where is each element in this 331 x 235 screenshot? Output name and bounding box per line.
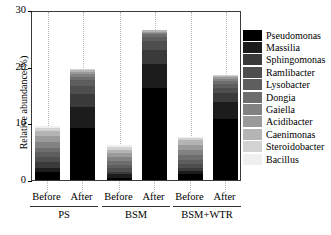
legend-swatch-icon <box>243 129 262 140</box>
stacked-bar[interactable] <box>142 30 167 180</box>
legend-item[interactable]: Sphingomonas <box>243 54 331 66</box>
y-axis-tick-label: 30 <box>8 5 26 16</box>
legend-item-label: Dongia <box>266 92 295 103</box>
group-rule <box>173 206 241 207</box>
legend-swatch-icon <box>243 116 262 127</box>
legend-item-label: Sphingomonas <box>266 54 325 65</box>
y-axis-tick-label: 10 <box>8 118 26 129</box>
bar-segment[interactable] <box>107 178 132 180</box>
y-axis-tick-mark <box>28 181 32 182</box>
bar-segment[interactable] <box>35 172 60 181</box>
stacked-bar[interactable] <box>70 69 95 180</box>
group-rule <box>30 206 98 207</box>
legend-item[interactable]: Acidibacter <box>243 116 331 128</box>
legend: PseudomonasMassiliaSphingomonasRamlibact… <box>243 29 331 165</box>
legend-item[interactable]: Dongia <box>243 91 331 103</box>
legend-item-label: Acidibacter <box>266 116 313 127</box>
legend-swatch-icon <box>243 141 262 152</box>
bar-segment[interactable] <box>213 102 238 120</box>
legend-item-label: Bacillus <box>266 154 299 165</box>
stacked-bar[interactable] <box>107 145 132 180</box>
legend-item[interactable]: Bacillus <box>243 153 331 165</box>
legend-item[interactable]: Massilia <box>243 41 331 53</box>
y-axis-tick-label: 20 <box>8 62 26 73</box>
stacked-bar[interactable] <box>178 137 203 180</box>
legend-item[interactable]: Ramlibacter <box>243 66 331 78</box>
legend-swatch-icon <box>243 67 262 78</box>
bar-segment[interactable] <box>70 128 95 180</box>
legend-swatch-icon <box>243 30 262 41</box>
legend-swatch-icon <box>243 79 262 90</box>
group-label-ps: PS <box>30 209 98 221</box>
legend-item[interactable]: Pseudomonas <box>243 29 331 41</box>
bar-segment[interactable] <box>142 41 167 50</box>
legend-swatch-icon <box>243 54 262 65</box>
legend-item[interactable]: Gaiella <box>243 103 331 115</box>
legend-item[interactable]: Lysobacter <box>243 79 331 91</box>
stacked-bar-chart-figure: Relative abundance(%) 3020100 BeforeAfte… <box>0 0 331 235</box>
y-axis-tick-mark <box>28 11 32 12</box>
plot-area <box>31 11 241 181</box>
plot-inner <box>32 12 240 180</box>
bar-segment[interactable] <box>70 94 95 107</box>
bar-segment[interactable] <box>178 174 203 180</box>
legend-swatch-icon <box>243 104 262 115</box>
stacked-bar[interactable] <box>35 126 60 180</box>
bar-segment[interactable] <box>142 64 167 88</box>
x-axis-label-after-5: After <box>202 191 248 202</box>
legend-swatch-icon <box>243 42 262 53</box>
group-rule <box>102 206 170 207</box>
legend-item[interactable]: Steroidobacter <box>243 141 331 153</box>
y-axis-tick-mark <box>28 124 32 125</box>
legend-item-label: Gaiella <box>266 104 295 115</box>
legend-swatch-icon <box>243 92 262 103</box>
legend-item-label: Pseudomonas <box>266 30 321 41</box>
stacked-bar[interactable] <box>213 75 238 180</box>
legend-item-label: Lysobacter <box>266 79 310 90</box>
bar-segment[interactable] <box>70 86 95 94</box>
legend-item-label: Steroidobacter <box>266 141 324 152</box>
legend-swatch-icon <box>243 154 262 165</box>
legend-item[interactable]: Caenimonas <box>243 128 331 140</box>
bar-segment[interactable] <box>142 88 167 180</box>
bar-segment[interactable] <box>70 107 95 128</box>
legend-item-label: Ramlibacter <box>266 67 315 78</box>
bar-segment[interactable] <box>213 93 238 102</box>
bar-segment[interactable] <box>213 119 238 180</box>
legend-item-label: Massilia <box>266 42 300 53</box>
y-axis-tick-mark <box>28 68 32 69</box>
group-label-bsm-wtr: BSM+WTR <box>173 209 241 221</box>
group-label-bsm: BSM <box>102 209 170 221</box>
legend-item-label: Caenimonas <box>266 129 315 140</box>
y-axis-tick-label: 0 <box>8 175 26 186</box>
bar-segment[interactable] <box>142 50 167 64</box>
